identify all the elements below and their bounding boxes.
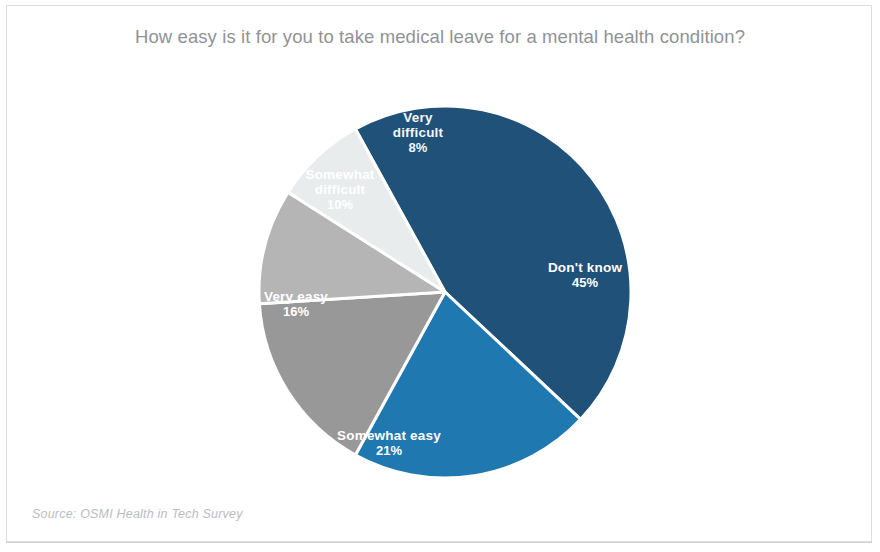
pie-slice-value: 45% (572, 275, 598, 290)
pie-slice-value: 8% (409, 140, 428, 155)
pie-slice-value: 16% (283, 304, 309, 319)
pie-slice-value: 10% (327, 197, 353, 212)
chart-page: How easy is it for you to take medical l… (0, 0, 880, 552)
pie-chart-svg: Don't know 45%Somewhat easy 21%Very easy… (0, 0, 880, 552)
pie-slice-value: 21% (376, 443, 402, 458)
pie-slice-label: Somewhat (305, 167, 374, 182)
pie-slice-label: difficult (393, 125, 444, 140)
pie-slice-label: Don't know (548, 260, 622, 275)
pie-chart: Don't know 45%Somewhat easy 21%Very easy… (0, 0, 880, 552)
pie-slice-label: difficult (315, 182, 366, 197)
pie-slice-label: Very (403, 110, 433, 125)
pie-slice-label: Somewhat easy (337, 428, 441, 443)
pie-slice-label: Very easy (264, 289, 328, 304)
source-note: Source: OSMI Health in Tech Survey (32, 507, 243, 521)
